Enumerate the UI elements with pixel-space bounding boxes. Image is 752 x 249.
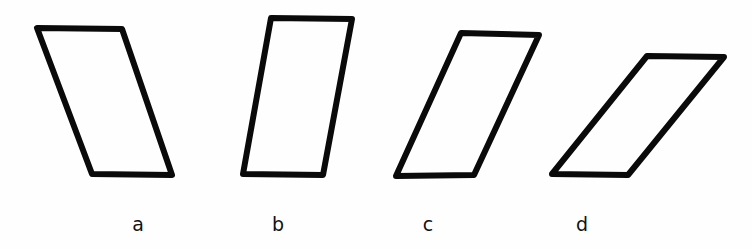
shapes-canvas <box>0 0 752 249</box>
label-b: b <box>268 212 288 236</box>
label-c: c <box>418 212 438 236</box>
shape-b-parallelogram-icon <box>243 18 352 175</box>
shape-d-parallelogram-icon <box>552 56 724 175</box>
label-a: a <box>128 212 148 236</box>
parallelogram-figure: a b c d <box>0 0 752 249</box>
label-d: d <box>572 212 592 236</box>
shape-c-parallelogram-icon <box>396 33 539 176</box>
shape-a-parallelogram-icon <box>37 28 172 175</box>
